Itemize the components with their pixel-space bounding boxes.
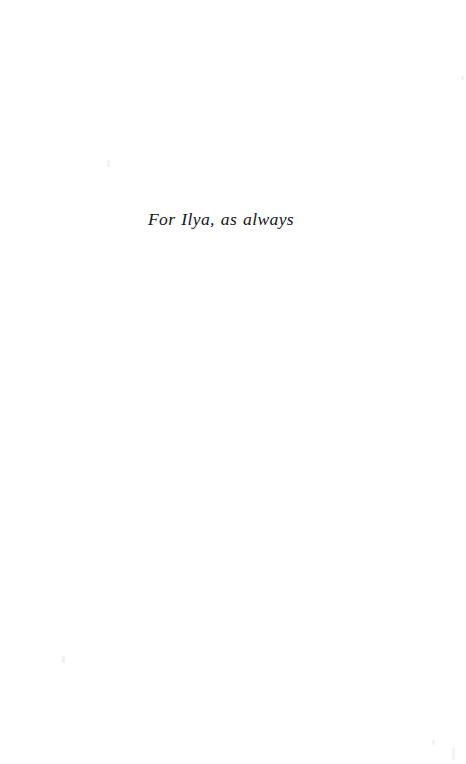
paper-speck-bottom-edge xyxy=(452,748,455,760)
dedication-text: For Ilya, as always xyxy=(148,208,294,231)
paper-speck-bottom-right xyxy=(432,740,435,745)
dedication-block: For Ilya, as always xyxy=(56,208,386,231)
book-page: For Ilya, as always xyxy=(0,0,466,764)
paper-speck-top-right xyxy=(461,76,464,80)
type-area: For Ilya, as always xyxy=(56,60,386,704)
